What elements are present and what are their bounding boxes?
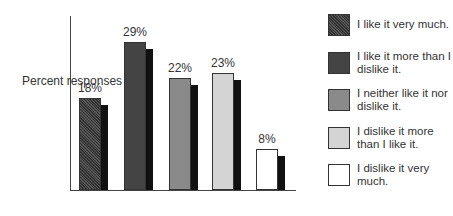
value-label: 18% [75,81,105,95]
bar [169,78,191,190]
bar [79,98,101,190]
legend-label: I like it very much. [357,18,452,31]
bar [212,73,234,190]
legend-swatch [328,89,350,111]
legend-swatch [328,164,350,186]
value-label: 22% [165,61,195,75]
legend-label: I dislike it very much. [357,162,452,188]
x-axis [70,190,296,191]
bar [124,42,146,190]
legend-label: I neither like it nor dislike it. [357,87,452,113]
value-label: 29% [120,25,150,39]
legend-label: I dislike it more than I like it. [357,125,452,151]
legend-swatch [328,14,350,36]
y-axis-label: Percent responses [22,74,122,88]
chart: Percent responses 18%29%22%23%8% I like … [0,0,453,216]
bar [256,149,278,190]
value-label: 8% [252,132,282,146]
y-axis [70,16,71,191]
value-label: 23% [208,56,238,70]
legend-swatch [328,127,350,149]
legend-swatch [328,52,350,74]
legend-label: I like it more than I dislike it. [357,50,452,76]
